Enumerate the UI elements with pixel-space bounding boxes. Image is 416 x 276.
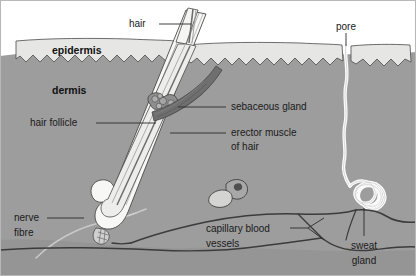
label-nerve-fibre-line1: nerve [14, 212, 39, 223]
label-erector-muscle-line1: erector muscle [231, 127, 297, 138]
label-hair: hair [129, 18, 146, 29]
skin-cross-section-figure: hair pore epidermis dermis hair follicle… [0, 0, 416, 276]
label-epidermis: epidermis [52, 44, 102, 56]
label-nerve-fibre-line2: fibre [14, 227, 34, 238]
label-dermis: dermis [52, 84, 87, 96]
diagram-canvas: hair pore epidermis dermis hair follicle… [0, 0, 416, 276]
label-capillary-line1: capillary blood [206, 223, 270, 234]
label-erector-muscle-line2: of hair [231, 141, 259, 152]
label-capillary-line2: vessels [206, 238, 239, 249]
label-pore: pore [336, 21, 356, 32]
label-sweat-gland-line2: gland [352, 255, 376, 266]
label-sweat-gland-line1: sweat [351, 240, 377, 251]
label-hair-follicle: hair follicle [30, 117, 78, 128]
label-sebaceous-gland: sebaceous gland [231, 101, 307, 112]
